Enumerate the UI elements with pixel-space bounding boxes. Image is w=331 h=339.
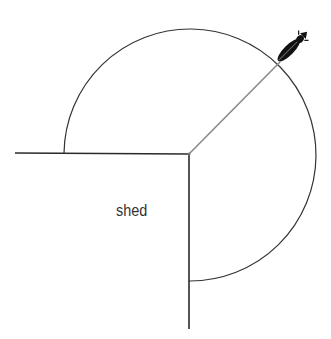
tether-point [187,152,190,155]
shed-tether-diagram [0,0,331,339]
rope [189,62,280,154]
shed-wall-top [15,153,189,154]
shed-label: shed [116,202,147,220]
tethered-animal-icon [273,27,312,66]
